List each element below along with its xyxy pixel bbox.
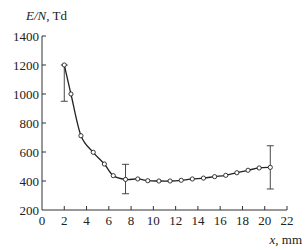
data-point [91,150,95,154]
x-tick-label: 8 [128,213,135,228]
data-point [179,178,183,182]
data-point [123,177,127,181]
y-axis-label-unit: , Td [46,8,67,23]
error-bars [61,65,274,194]
data-point [136,177,140,181]
x-tick-label: 22 [281,213,294,228]
data-point [268,165,272,169]
y-axis-label: E/N, Td [25,8,67,23]
data-point [62,63,66,67]
x-ticks: 0246810121416182022 [39,206,294,228]
data-point [190,177,194,181]
y-tick-label: 800 [20,116,40,131]
series-line [64,65,270,181]
x-tick-label: 10 [147,213,160,228]
data-point [146,179,150,183]
x-tick-label: 16 [214,213,228,228]
x-tick-label: 20 [258,213,271,228]
x-axis-label: x, mm [268,232,302,247]
axes [42,36,287,210]
x-tick-label: 12 [169,213,182,228]
y-tick-label: 1000 [13,87,39,102]
y-tick-label: 1200 [13,58,39,73]
y-axis-label-symbol: E/N [25,8,48,23]
data-point [102,162,106,166]
x-tick-label: 0 [39,213,46,228]
y-tick-label: 200 [20,203,40,218]
data-point [168,179,172,183]
data-point [246,168,250,172]
data-point [157,179,161,183]
x-axis-label-unit: , mm [275,232,302,247]
chart: 0246810121416182022 20040060080010001200… [0,0,306,250]
y-tick-label: 600 [20,145,40,160]
data-point [235,171,239,175]
x-tick-label: 14 [191,213,205,228]
x-tick-label: 2 [61,213,68,228]
y-tick-label: 1400 [13,29,39,44]
x-tick-label: 4 [83,213,90,228]
data-point [111,174,115,178]
data-point [257,166,261,170]
data-point [213,175,217,179]
data-point [79,134,83,138]
y-tick-label: 400 [20,174,40,189]
y-ticks: 200400600800100012001400 [13,29,46,218]
data-point [224,173,228,177]
x-tick-label: 6 [106,213,113,228]
data-point [69,92,73,96]
data-point [201,176,205,180]
error-bar [61,65,68,101]
x-tick-label: 18 [236,213,249,228]
series [62,63,272,183]
